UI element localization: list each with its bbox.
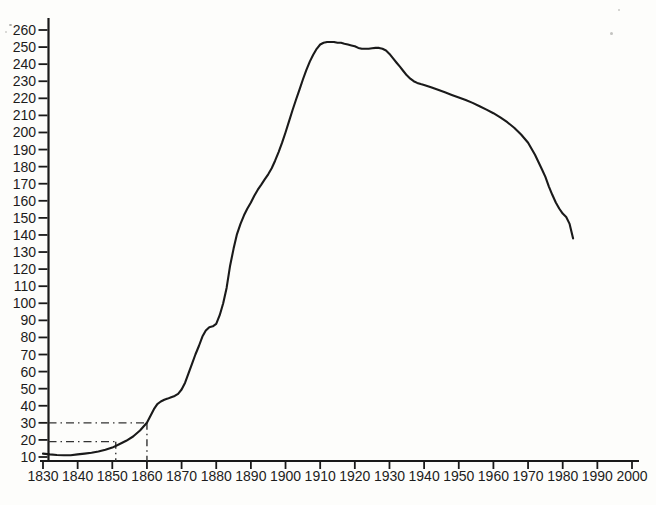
- y-tick-label: 190: [13, 142, 37, 158]
- x-tick-label: 1900: [270, 468, 301, 484]
- scan-artifact-dot: [618, 9, 620, 11]
- x-tick-label: 1890: [235, 468, 266, 484]
- data-curve-main-curve: [43, 42, 573, 455]
- y-tick-label: 140: [13, 227, 37, 243]
- x-tick-label: 1830: [27, 468, 58, 484]
- y-tick-label: 50: [20, 381, 36, 397]
- y-tick-label: 150: [13, 210, 37, 226]
- scan-artifact-dot: [5, 31, 7, 33]
- x-tick-label: 1910: [305, 468, 336, 484]
- scanned-chart-page: 2602502402302202102001901801701601501401…: [0, 0, 656, 505]
- y-tick-label: 60: [20, 364, 36, 380]
- y-tick-label: 70: [20, 347, 36, 363]
- y-tick-label: 180: [13, 159, 37, 175]
- x-tick-label: 1940: [409, 468, 440, 484]
- y-tick-label: 210: [13, 107, 37, 123]
- y-tick-label: 100: [13, 295, 37, 311]
- y-tick-label: 40: [20, 398, 36, 414]
- x-tick-label: 1920: [339, 468, 370, 484]
- x-tick-label: 1930: [374, 468, 405, 484]
- y-tick-label: 20: [20, 432, 36, 448]
- scan-artifact-dot: [16, 29, 18, 31]
- y-tick-label: 10: [20, 449, 36, 465]
- x-tick-label: 2000: [616, 468, 647, 484]
- x-tick-label: 1960: [478, 468, 509, 484]
- x-tick-label: 1980: [547, 468, 578, 484]
- line-chart: 2602502402302202102001901801701601501401…: [0, 0, 656, 505]
- x-tick-label: 1840: [62, 468, 93, 484]
- y-tick-label: 160: [13, 193, 37, 209]
- scan-artifact-dot: [9, 24, 12, 26]
- y-tick-label: 200: [13, 124, 37, 140]
- x-tick-label: 1990: [582, 468, 613, 484]
- y-tick-label: 130: [13, 244, 37, 260]
- y-tick-label: 30: [20, 415, 36, 431]
- y-tick-label: 90: [20, 312, 36, 328]
- y-tick-label: 80: [20, 329, 36, 345]
- x-tick-label: 1880: [201, 468, 232, 484]
- x-tick-label: 1850: [97, 468, 128, 484]
- y-tick-label: 230: [13, 73, 37, 89]
- scan-artifact-dot: [610, 32, 613, 35]
- y-tick-label: 250: [13, 39, 37, 55]
- y-tick-label: 240: [13, 56, 37, 72]
- y-tick-label: 220: [13, 90, 37, 106]
- x-tick-label: 1870: [166, 468, 197, 484]
- x-tick-label: 1860: [131, 468, 162, 484]
- x-tick-label: 1970: [512, 468, 543, 484]
- x-tick-label: 1950: [443, 468, 474, 484]
- y-tick-label: 120: [13, 261, 37, 277]
- y-tick-label: 170: [13, 176, 37, 192]
- y-tick-label: 110: [14, 278, 37, 294]
